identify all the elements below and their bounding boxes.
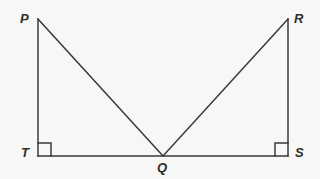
vertex-label-p: P [20,12,29,25]
figure-canvas [0,0,320,179]
right-angle-marker-T [38,143,51,156]
vertex-label-r: R [294,12,303,25]
segment-QR [163,19,288,156]
geometry-figure: P R T S Q [0,0,320,179]
right-angle-marker-S [275,143,288,156]
vertex-label-t: T [21,146,29,159]
segment-PQ [38,19,163,156]
vertex-label-q: Q [157,161,167,174]
vertex-label-s: S [295,146,304,159]
